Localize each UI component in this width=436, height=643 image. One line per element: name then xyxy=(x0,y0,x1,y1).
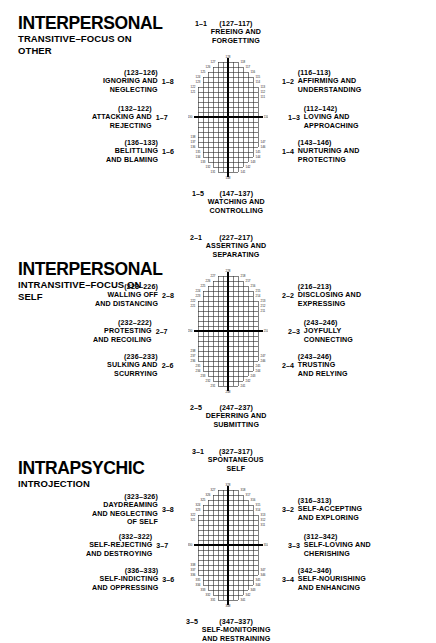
svg-text:211: 211 xyxy=(261,309,266,313)
svg-text:323: 323 xyxy=(196,508,201,512)
pole-line: FREEING AND xyxy=(211,28,261,36)
svg-text:148: 148 xyxy=(226,176,231,180)
panel-3-heading-sub-1: INTROJECTION xyxy=(18,478,144,490)
pole-line: SELF-MONITORING xyxy=(202,626,271,634)
svg-text:315: 315 xyxy=(256,503,261,507)
pole-line: LOVING AND xyxy=(304,113,359,121)
pole-line: DISCLOSING AND xyxy=(298,291,361,299)
pole-label-21: 2–1(227–217)ASSERTING ANDSEPARATING xyxy=(190,234,266,259)
pole-code: (227–217) xyxy=(206,234,266,242)
pole-label-34: 3–4(342–346)SELF-NOURISHINGAND ENHANCING xyxy=(282,567,366,592)
pole-code: (347–337) xyxy=(202,618,271,626)
pole-label-37: 3–7(332–322)SELF-REJECTINGAND DESTROYING xyxy=(86,533,168,558)
svg-text:314: 314 xyxy=(256,508,261,512)
pole-text: (327–317)SPONTANEOUSSELF xyxy=(208,448,264,473)
pole-label-15: 1–5(147–137)WATCHING ANDCONTROLLING xyxy=(192,190,265,215)
pole-label-26: 2–6(236–233)SULKING ANDSCURRYING xyxy=(107,353,174,378)
pole-label-33: 3–3(312–342)SELF-LOVING ANDCHERISHING xyxy=(288,533,371,558)
svg-text:227: 227 xyxy=(211,274,216,278)
svg-text:346: 346 xyxy=(261,573,266,577)
svg-text:248: 248 xyxy=(226,390,231,394)
panel-interpersonal-transitive: INTERPERSONAL TRANSITIVE–FOCUS ON OTHER … xyxy=(0,0,436,215)
pole-line: SCURRYING xyxy=(107,370,158,378)
pole-code: (136–133) xyxy=(106,139,158,147)
svg-text:130: 130 xyxy=(188,115,193,119)
svg-text:145: 145 xyxy=(256,150,261,154)
pole-text: (247–237)DEFERRING ANDSUBMITTING xyxy=(206,404,267,429)
pole-label-16: 1–6(136–133)BELITTLINGAND BLAMING xyxy=(106,139,174,164)
svg-text:110: 110 xyxy=(264,115,268,119)
pole-quadrant-number: 3–7 xyxy=(156,542,168,550)
pole-text: (323–326)DAYDREAMINGAND NEGLECTINGOF SEL… xyxy=(92,493,158,527)
pole-line: AND DESTROYING xyxy=(86,550,152,558)
svg-text:136: 136 xyxy=(191,145,196,149)
panel-interpersonal-intransitive: INTERPERSONAL INTRANSITIVE–FOCUS ON SELF… xyxy=(0,215,436,429)
svg-text:223: 223 xyxy=(196,294,201,298)
pole-quadrant-number: 3–2 xyxy=(282,506,294,514)
circumplex-lattice-1: 1281481301101271261251241231221211181171… xyxy=(188,47,268,187)
pole-label-38: 3–8(323–326)DAYDREAMINGAND NEGLECTINGOF … xyxy=(92,493,174,527)
pole-line: AND RECOILING xyxy=(93,336,152,344)
pole-quadrant-number: 3–1 xyxy=(192,448,204,456)
svg-text:128: 128 xyxy=(226,55,231,59)
pole-label-28: 2–8(223–226)WALLING OFFAND DISTANCING xyxy=(95,283,174,308)
pole-text: (216–213)DISCLOSING ANDEXPRESSING xyxy=(298,283,361,308)
pole-text: (223–226)WALLING OFFAND DISTANCING xyxy=(95,283,158,308)
svg-text:310: 310 xyxy=(264,543,268,547)
pole-label-36: 3–6(336–333)SELF-INDICTINGAND OPPRESSING xyxy=(92,567,174,592)
pole-text: (127–117)FREEING ANDFORGETTING xyxy=(211,20,261,45)
pole-line: WALLING OFF xyxy=(95,291,158,299)
svg-text:210: 210 xyxy=(264,329,268,333)
pole-text: (332–322)SELF-REJECTINGAND DESTROYING xyxy=(86,533,152,558)
svg-text:316: 316 xyxy=(251,498,256,502)
pole-code: (143–146) xyxy=(298,139,360,147)
svg-text:237: 237 xyxy=(191,354,196,358)
svg-text:345: 345 xyxy=(256,578,261,582)
pole-label-25: 2–5(247–237)DEFERRING ANDSUBMITTING xyxy=(190,404,267,429)
pole-quadrant-number: 2–1 xyxy=(190,234,202,242)
pole-quadrant-number: 1–3 xyxy=(288,114,300,122)
svg-text:216: 216 xyxy=(251,284,256,288)
pole-label-24: 2–4(243–246)TRUSTINGAND RELYING xyxy=(282,353,348,378)
pole-text: (136–133)BELITTLINGAND BLAMING xyxy=(106,139,158,164)
pole-text: (232–222)PROTESTINGAND RECOILING xyxy=(93,319,152,344)
pole-code: (132–122) xyxy=(92,105,152,113)
svg-text:115: 115 xyxy=(256,75,261,79)
pole-line: JOYFULLY xyxy=(304,327,353,335)
pole-quadrant-number: 1–7 xyxy=(156,114,168,122)
pole-text: (123–126)IGNORING ANDNEGLECTING xyxy=(103,69,158,94)
svg-text:121: 121 xyxy=(191,90,196,94)
pole-quadrant-number: 1–8 xyxy=(162,78,174,86)
pole-quadrant-number: 1–2 xyxy=(282,78,294,86)
pole-line: AND EXPLORING xyxy=(298,514,362,522)
svg-text:336: 336 xyxy=(191,573,196,577)
panel-3-heading: INTRAPSYCHIC INTROJECTION xyxy=(18,459,144,490)
svg-text:212: 212 xyxy=(261,304,266,308)
svg-text:134: 134 xyxy=(196,155,201,159)
svg-text:225: 225 xyxy=(201,284,206,288)
svg-text:337: 337 xyxy=(191,568,196,572)
pole-quadrant-number: 2–6 xyxy=(162,362,174,370)
pole-text: (236–233)SULKING ANDSCURRYING xyxy=(107,353,158,378)
circumplex-lattice-3: 3283483303103273263253243233223213183173… xyxy=(188,475,268,615)
pole-code: (232–222) xyxy=(93,319,152,327)
svg-text:236: 236 xyxy=(191,359,196,363)
pole-line: AND OPPRESSING xyxy=(92,584,158,592)
pole-code: (247–237) xyxy=(206,404,267,412)
pole-quadrant-number: 1–4 xyxy=(282,148,294,156)
panel-intrapsychic: INTRAPSYCHIC INTROJECTION 32834833031032… xyxy=(0,429,436,643)
svg-text:341: 341 xyxy=(241,598,246,602)
pole-label-18: 1–8(123–126)IGNORING ANDNEGLECTING xyxy=(103,69,174,94)
svg-text:124: 124 xyxy=(196,75,201,79)
svg-text:126: 126 xyxy=(206,65,211,69)
pole-line: OF SELF xyxy=(92,518,158,526)
pole-quadrant-number: 3–8 xyxy=(162,506,174,514)
svg-text:224: 224 xyxy=(196,289,201,293)
pole-line: SELF-NOURISHING xyxy=(298,575,366,583)
svg-text:321: 321 xyxy=(191,518,196,522)
svg-text:138: 138 xyxy=(191,135,196,139)
svg-text:133: 133 xyxy=(201,160,206,164)
pole-line: EXPRESSING xyxy=(298,300,361,308)
svg-text:331: 331 xyxy=(211,598,216,602)
pole-line: ATTACKING AND xyxy=(92,113,152,121)
